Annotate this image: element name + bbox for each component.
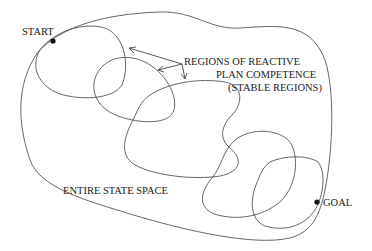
pointer-arrows — [129, 47, 187, 79]
regions-label-line3: (STABLE REGIONS) — [228, 82, 322, 94]
stable-region-3 — [125, 81, 240, 178]
state-space-diagram: START GOAL REGIONS OF REACTIVE PLAN COMP… — [0, 0, 372, 251]
start-label: START — [22, 26, 54, 37]
goal-label: GOAL — [323, 197, 352, 208]
state-space-label: ENTIRE STATE SPACE — [63, 185, 168, 196]
stable-region-4 — [202, 131, 295, 217]
regions-label-line2: PLAN COMPETENCE — [216, 69, 316, 80]
start-node — [50, 38, 55, 43]
stable-region-2 — [94, 57, 175, 121]
regions-label-line1: REGIONS OF REACTIVE — [184, 56, 300, 67]
entire-state-space-boundary — [21, 12, 332, 240]
goal-node — [314, 199, 319, 204]
